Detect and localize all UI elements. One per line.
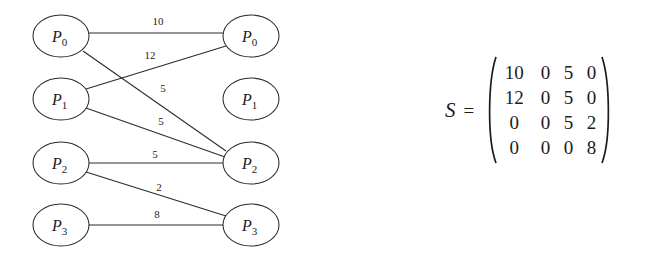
bipartite-graph-panel: P0P1P2P3P0P1P2P3 101255528 bbox=[0, 0, 330, 265]
left-paren-icon bbox=[484, 55, 497, 165]
node-label-base: P bbox=[241, 91, 252, 108]
matrix-cell: 8 bbox=[575, 135, 598, 160]
edge-weight-label: 8 bbox=[154, 208, 160, 220]
matrix-cell: 0 bbox=[529, 60, 552, 85]
node-label-subscript: 2 bbox=[62, 163, 68, 175]
matrix-cell: 0 bbox=[529, 110, 552, 135]
node-label-subscript: 0 bbox=[252, 36, 258, 48]
matrix-cell: 0 bbox=[500, 135, 529, 160]
matrix-body: 100501205000520008 bbox=[497, 55, 601, 165]
matrix-cell: 0 bbox=[575, 85, 598, 110]
node-label-subscript: 1 bbox=[62, 99, 68, 111]
bipartite-graph-svg: P0P1P2P3P0P1P2P3 101255528 bbox=[0, 0, 330, 265]
edge-weight-label: 5 bbox=[158, 115, 164, 127]
matrix-row: 0008 bbox=[500, 135, 598, 160]
matrix-row: 10050 bbox=[500, 60, 598, 85]
equals-sign: = bbox=[464, 101, 479, 120]
matrix-cell: 0 bbox=[500, 110, 529, 135]
matrix-cell: 12 bbox=[500, 85, 529, 110]
edges-layer bbox=[83, 33, 226, 225]
edge-weight-label: 5 bbox=[152, 148, 158, 160]
graph-edge bbox=[83, 51, 226, 151]
node-label-subscript: 2 bbox=[252, 163, 258, 175]
matrix-cell: 5 bbox=[552, 60, 575, 85]
matrix-row: 0052 bbox=[500, 110, 598, 135]
matrix-row: 12050 bbox=[500, 85, 598, 110]
matrix-cell: 0 bbox=[575, 60, 598, 85]
node-label-base: P bbox=[51, 28, 62, 45]
edge-weight-label: 10 bbox=[153, 15, 165, 27]
matrix-bracketed: 100501205000520008 bbox=[484, 55, 614, 165]
node-label-subscript: 3 bbox=[252, 225, 258, 237]
edge-weights-layer: 101255528 bbox=[145, 15, 167, 220]
node-label-base: P bbox=[241, 28, 252, 45]
edge-weight-label: 2 bbox=[156, 181, 162, 193]
node-label-subscript: 1 bbox=[252, 99, 258, 111]
matrix-cell: 5 bbox=[552, 110, 575, 135]
matrix-cell: 5 bbox=[552, 85, 575, 110]
edge-weight-label: 5 bbox=[160, 82, 166, 94]
node-label-subscript: 3 bbox=[62, 225, 68, 237]
matrix-cell: 10 bbox=[500, 60, 529, 85]
matrix-cell: 0 bbox=[529, 135, 552, 160]
node-label-base: P bbox=[241, 155, 252, 172]
matrix-cell: 0 bbox=[529, 85, 552, 110]
node-label-base: P bbox=[51, 155, 62, 172]
matrix-cell: 0 bbox=[552, 135, 575, 160]
matrix-panel: S = 100501205000520008 bbox=[330, 0, 658, 265]
right-paren-icon bbox=[601, 55, 614, 165]
node-label-base: P bbox=[51, 217, 62, 234]
node-label-base: P bbox=[241, 217, 252, 234]
matrix-cell: 2 bbox=[575, 110, 598, 135]
matrix-equation: S = 100501205000520008 bbox=[445, 55, 614, 165]
matrix-symbol: S bbox=[445, 100, 458, 121]
edge-weight-label: 12 bbox=[145, 49, 156, 61]
figure-page: P0P1P2P3P0P1P2P3 101255528 S = 100501205… bbox=[0, 0, 658, 265]
node-label-subscript: 0 bbox=[62, 36, 68, 48]
node-label-base: P bbox=[51, 91, 62, 108]
